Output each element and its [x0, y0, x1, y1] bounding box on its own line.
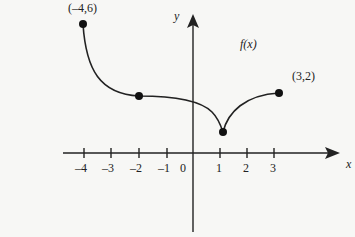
- tick-label: 1: [216, 161, 222, 175]
- y-axis-label: y: [173, 9, 180, 23]
- x-axis-label: x: [345, 157, 352, 171]
- point-end: [275, 89, 283, 97]
- point-cusp: [219, 128, 227, 136]
- tick-label: –2: [129, 161, 142, 175]
- end-point-label: (3,2): [292, 69, 315, 83]
- tick-label: –4: [74, 161, 87, 175]
- point-x-minus-2: [135, 92, 143, 100]
- tick-label: –3: [101, 161, 114, 175]
- point-start: [79, 20, 87, 28]
- tick-label: –1: [157, 161, 170, 175]
- tick-label: 2: [243, 161, 249, 175]
- tick-label: 0: [180, 161, 186, 175]
- function-graph: –4 –3 –2 –1 0 1 2 3 y x f(x) (–4,6) (3,2…: [0, 0, 355, 237]
- function-label: f(x): [240, 37, 257, 51]
- graph-canvas: –4 –3 –2 –1 0 1 2 3 y x f(x) (–4,6) (3,2…: [0, 0, 355, 237]
- tick-label: 3: [270, 161, 276, 175]
- start-point-label: (–4,6): [68, 1, 97, 15]
